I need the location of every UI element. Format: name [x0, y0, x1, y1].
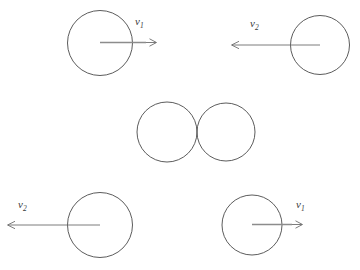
bottom-right-velocity-label: v1: [296, 198, 305, 213]
bottom-left-velocity-label: v2: [18, 198, 27, 213]
top-left-ball-group: v1: [68, 11, 157, 76]
top-left-velocity-label: v1: [135, 15, 144, 30]
stage-before-collision: v1 v2: [68, 11, 350, 76]
bottom-right-ball-group: v1: [222, 195, 305, 255]
top-right-ball-group: v2: [232, 16, 350, 75]
stage-after-collision: v2 v1: [8, 193, 305, 258]
collision-diagram-canvas: v1 v2 v2: [0, 0, 360, 270]
top-right-velocity-label: v2: [250, 17, 259, 32]
middle-right-ball: [197, 103, 255, 161]
middle-left-ball: [137, 102, 197, 162]
bottom-left-ball-group: v2: [8, 193, 133, 258]
stage-at-contact: [137, 102, 255, 162]
collision-diagram: v1 v2 v2: [0, 0, 360, 270]
